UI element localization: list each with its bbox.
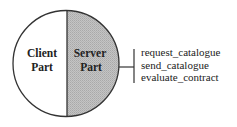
client-part-label-line2: Part xyxy=(31,61,53,73)
interface-operation: evaluate_contract xyxy=(141,71,219,83)
interface-operation: request_catalogue xyxy=(141,46,221,58)
server-part-label-line1: Server xyxy=(74,47,107,59)
client-server-diagram: Client Part Server Part request_catalogu… xyxy=(0,0,237,127)
server-part-label-line2: Part xyxy=(80,61,102,73)
client-part-label-line1: Client xyxy=(27,47,57,59)
interface-operation: send_catalogue xyxy=(141,59,209,71)
